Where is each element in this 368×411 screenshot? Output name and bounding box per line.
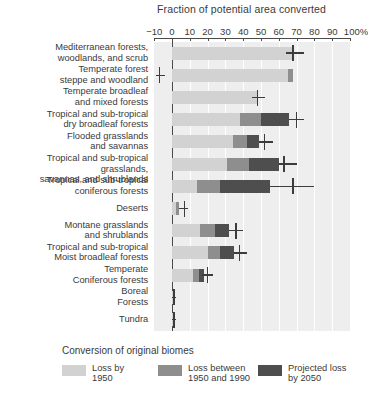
bar-segment-seg1 bbox=[172, 269, 193, 282]
bar-segment-seg3 bbox=[220, 180, 270, 193]
error-bar-center bbox=[159, 67, 161, 83]
legend-item[interactable]: Loss by 1950 bbox=[62, 364, 157, 388]
gridline bbox=[314, 42, 315, 331]
legend-label: Loss between 1950 and 1990 bbox=[188, 363, 250, 385]
error-bar-whisker bbox=[279, 163, 297, 164]
x-tick-mark bbox=[350, 38, 351, 41]
category-label: Temperate forest steppe and woodland bbox=[2, 64, 148, 85]
bar-segment-seg1 bbox=[172, 47, 293, 60]
bar-segment-seg2 bbox=[227, 158, 248, 171]
x-tick-label: 0 bbox=[169, 26, 174, 37]
bar-segment-seg3 bbox=[215, 224, 229, 237]
error-bar-center bbox=[173, 312, 175, 328]
bar-segment-seg1 bbox=[172, 224, 200, 237]
legend-swatch bbox=[258, 365, 282, 376]
bar-segment-seg1 bbox=[172, 113, 240, 126]
bar-segment-seg1 bbox=[172, 246, 208, 259]
bar-segment-seg1 bbox=[172, 158, 227, 171]
bar-segment-seg3 bbox=[261, 113, 289, 126]
bar-segment-seg1 bbox=[172, 180, 197, 193]
error-bar-center bbox=[292, 178, 294, 194]
error-bar-center bbox=[257, 90, 259, 106]
error-bar-whisker bbox=[286, 52, 304, 53]
x-tick-label: 50 bbox=[256, 26, 267, 37]
x-axis-tick-labels: −100102030405060708090100% bbox=[0, 26, 363, 38]
x-tick-label: 40 bbox=[238, 26, 249, 37]
x-tick-label: 10 bbox=[185, 26, 196, 37]
category-label: Mediterranean forests, woodlands, and sc… bbox=[2, 42, 148, 63]
x-tick-label: 80 bbox=[309, 26, 320, 37]
error-bar-center bbox=[207, 267, 209, 283]
category-label: Tropical and sub-tropical coniferous for… bbox=[2, 175, 148, 196]
legend-label: Loss by 1950 bbox=[92, 363, 124, 385]
error-bar-whisker bbox=[156, 75, 165, 76]
category-label: Temperate Coniferous forests bbox=[2, 264, 148, 285]
gridline bbox=[350, 42, 351, 331]
error-bar-center bbox=[235, 223, 237, 239]
bar-segment-seg3 bbox=[220, 246, 234, 259]
x-tick-label: −10 bbox=[146, 26, 162, 37]
bar-segment-seg3 bbox=[247, 135, 259, 148]
category-label: Montane grasslands and shrublands bbox=[2, 220, 148, 241]
x-axis-line bbox=[154, 38, 350, 39]
error-bar-center bbox=[264, 134, 266, 150]
legend-item[interactable]: Projected loss by 2050 bbox=[258, 364, 353, 388]
error-bar-center bbox=[296, 112, 298, 128]
x-tick-label: 70 bbox=[291, 26, 302, 37]
bar-segment-seg2 bbox=[208, 246, 220, 259]
category-label: Boreal Forests bbox=[2, 286, 148, 307]
error-bar-whisker bbox=[259, 141, 273, 142]
error-bar-center bbox=[184, 201, 186, 217]
category-label: Flooded grasslands and savannas bbox=[2, 131, 148, 152]
chart-title: Fraction of potential area converted bbox=[120, 3, 363, 15]
category-label: Deserts bbox=[2, 203, 148, 214]
bar-segment-seg1 bbox=[172, 135, 233, 148]
legend-item[interactable]: Loss between 1950 and 1990 bbox=[158, 364, 253, 388]
x-tick-label: 60 bbox=[274, 26, 285, 37]
error-bar-center bbox=[283, 156, 285, 172]
category-label: Temperate broadleaf and mixed forests bbox=[2, 86, 148, 107]
x-tick-label: 100% bbox=[344, 26, 368, 37]
legend-swatch bbox=[158, 365, 182, 376]
gridline bbox=[332, 42, 333, 331]
error-bar-whisker bbox=[252, 97, 264, 98]
error-bar-whisker bbox=[234, 252, 246, 253]
x-tick-label: 90 bbox=[327, 26, 338, 37]
bar-segment-seg2 bbox=[200, 224, 214, 237]
bar-segment-seg3 bbox=[249, 158, 279, 171]
bar-segment-seg1 bbox=[172, 91, 257, 104]
category-label: Tropical and sub-tropical Moist broadlea… bbox=[2, 242, 148, 263]
x-tick-label: 30 bbox=[220, 26, 231, 37]
bar-segment-seg2 bbox=[288, 69, 293, 82]
category-label: Tropical and sub-tropical dry broadleaf … bbox=[2, 109, 148, 130]
legend-title: Conversion of original biomes bbox=[62, 345, 194, 356]
legend-swatch bbox=[62, 365, 86, 376]
bar-segment-seg1 bbox=[172, 69, 288, 82]
error-bar-center bbox=[292, 45, 294, 61]
bar-segment-seg2 bbox=[233, 135, 247, 148]
bar-segment-seg2 bbox=[197, 180, 220, 193]
category-label: Tundra bbox=[2, 314, 148, 325]
x-tick-label: 20 bbox=[202, 26, 213, 37]
error-bar-center bbox=[239, 245, 241, 261]
bar-segment-seg2 bbox=[240, 113, 261, 126]
legend-label: Projected loss by 2050 bbox=[288, 363, 346, 385]
error-bar-center bbox=[173, 289, 175, 305]
